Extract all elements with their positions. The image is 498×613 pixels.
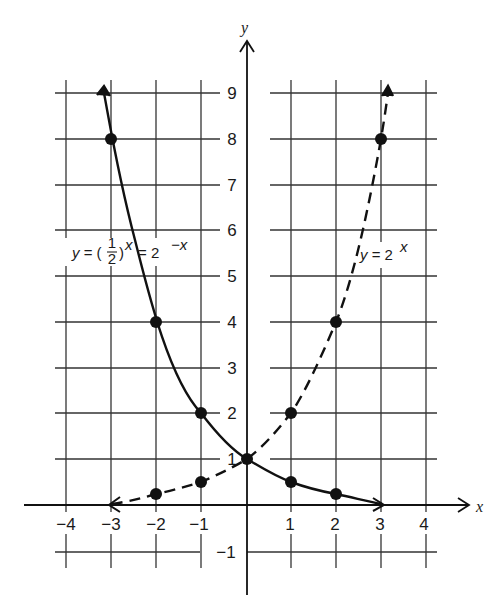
svg-text:4: 4: [227, 313, 236, 332]
svg-text:4: 4: [419, 515, 428, 534]
svg-text:= 2: = 2: [138, 244, 159, 261]
svg-text:2: 2: [108, 250, 116, 267]
svg-text:−1: −1: [216, 543, 235, 562]
svg-text:9: 9: [227, 84, 236, 103]
svg-text:7: 7: [227, 176, 236, 195]
svg-text:−4: −4: [56, 515, 75, 534]
svg-text:−x: −x: [171, 236, 188, 253]
svg-text:3: 3: [227, 359, 236, 378]
svg-text:1: 1: [108, 234, 116, 251]
svg-text:−2: −2: [146, 515, 165, 534]
svg-text:6: 6: [227, 221, 236, 240]
svg-text:y = 2: y = 2: [359, 246, 393, 263]
svg-text:−1: −1: [189, 515, 208, 534]
svg-text:−3: −3: [101, 515, 120, 534]
x-axis-label: x: [475, 498, 483, 515]
exponential-graph: x y −4 −3 −2 −1 1 2 3 4 9 8 7 6 5 4 3 2 …: [0, 0, 498, 613]
svg-text:): ): [119, 244, 124, 261]
svg-text:2: 2: [330, 515, 339, 534]
svg-text:2: 2: [227, 404, 236, 423]
svg-text:x: x: [399, 238, 408, 255]
svg-text:x: x: [124, 236, 133, 253]
svg-text:3: 3: [375, 515, 384, 534]
svg-text:5: 5: [227, 267, 236, 286]
svg-text:1: 1: [285, 515, 294, 534]
svg-text:8: 8: [227, 130, 236, 149]
y-axis-label: y: [239, 19, 249, 37]
svg-text:y = (: y = (: [71, 244, 102, 261]
